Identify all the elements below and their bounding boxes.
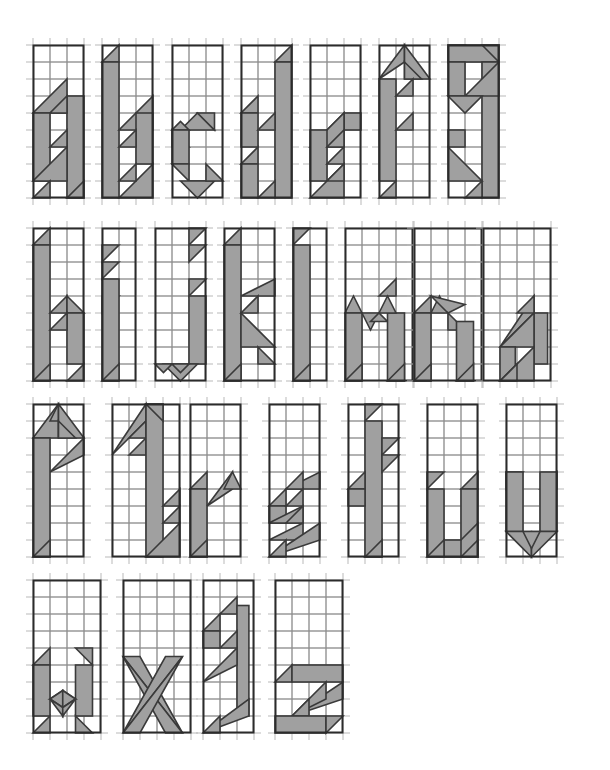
letter-b — [95, 38, 160, 205]
letter-t — [341, 397, 406, 564]
letter-f — [372, 38, 437, 205]
letter-u — [420, 397, 485, 564]
letter-o — [476, 221, 558, 388]
letter-j — [148, 221, 213, 388]
letter-c — [165, 38, 230, 205]
alphabet-chart-sheet — [0, 0, 610, 770]
letter-e — [303, 38, 368, 205]
letter-q — [105, 397, 187, 564]
letter-s — [262, 397, 327, 564]
letter-d — [234, 38, 299, 205]
letter-h — [26, 221, 91, 388]
letter-z — [268, 573, 350, 740]
letter-k — [217, 221, 282, 388]
letter-r — [183, 397, 248, 564]
letter-y — [196, 573, 261, 740]
letter-v — [499, 397, 564, 564]
letter-w — [26, 573, 108, 740]
letter-l — [286, 221, 334, 388]
letter-x — [116, 573, 198, 740]
letter-a — [26, 38, 91, 205]
letter-i — [95, 221, 143, 388]
letter-g — [441, 38, 506, 205]
letter-p — [26, 397, 91, 564]
